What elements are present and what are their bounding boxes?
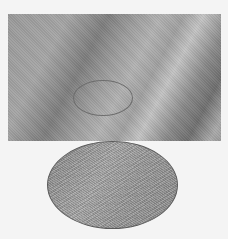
- region-of-interest-ellipse: [73, 80, 133, 116]
- texture-image-panel: [8, 14, 221, 141]
- magnified-inset-ellipse: [47, 141, 178, 229]
